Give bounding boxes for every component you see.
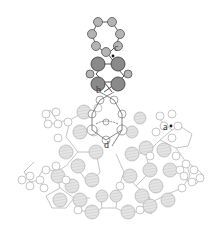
label-b: b (96, 84, 101, 95)
central-ring (87, 96, 127, 144)
marker-a (170, 125, 173, 128)
label-a: a (163, 121, 168, 132)
marker-c (112, 55, 115, 58)
label-d: d (104, 139, 109, 150)
label-c: c (114, 42, 119, 53)
molecular-diagram: a b c d (0, 0, 213, 231)
